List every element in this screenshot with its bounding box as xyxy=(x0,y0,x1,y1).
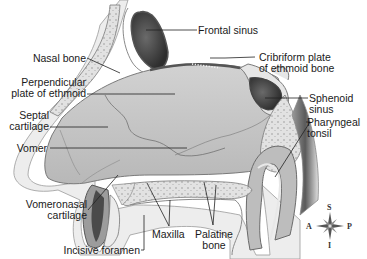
leader-cribriform xyxy=(210,57,255,58)
label-septal-line2: cartilage xyxy=(9,121,49,132)
label-sphenoid-line2: sinus xyxy=(309,104,353,115)
compass-anterior: A xyxy=(306,222,312,231)
compass-rose xyxy=(316,212,344,240)
compass-posterior: P xyxy=(347,222,352,231)
label-frontal-sinus: Frontal sinus xyxy=(198,25,258,36)
label-perpendicular-line2: plate of ethmoid xyxy=(11,88,86,99)
label-vomeronasal-cartilage: Vomeronasal cartilage xyxy=(26,199,87,221)
label-cribriform-line2: of ethmoid bone xyxy=(259,63,334,74)
compass-inferior: I xyxy=(328,241,331,250)
label-maxilla: Maxilla xyxy=(152,229,185,240)
label-pharyngeal-tonsil: Pharyngeal tonsil xyxy=(307,117,360,139)
label-vomeronasal-line2: cartilage xyxy=(26,210,87,221)
label-nasal-bone: Nasal bone xyxy=(33,53,86,64)
label-pharyngeal-line2: tonsil xyxy=(307,128,360,139)
compass-superior: S xyxy=(327,203,331,212)
label-incisive-foramen: Incisive foramen xyxy=(64,245,140,256)
label-vomer: Vomer xyxy=(17,143,47,154)
label-palatine-bone: Palatine bone xyxy=(193,229,235,251)
label-perpendicular-plate: Perpendicular plate of ethmoid xyxy=(11,77,86,99)
label-septal-cartilage: Septal cartilage xyxy=(9,110,49,132)
label-sphenoid-sinus: Sphenoid sinus xyxy=(309,93,353,115)
label-palatine-line2: bone xyxy=(193,240,235,251)
label-cribriform-plate: Cribriform plate of ethmoid bone xyxy=(259,52,334,74)
